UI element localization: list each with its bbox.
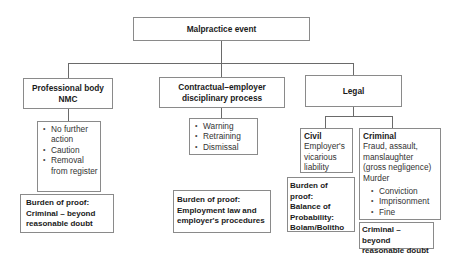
criminal-burden-of-proof: Criminal – beyond reasonable doubt <box>359 222 434 249</box>
civil-heading: Civil <box>304 131 349 141</box>
professional-outcomes-list: No further action Caution Removal from r… <box>41 124 98 176</box>
node-professional-body: Professional body NMC <box>23 78 113 109</box>
civil-description-line: vicarious <box>304 152 349 162</box>
node-legal: Legal <box>305 75 402 107</box>
connector-horizontal-main <box>68 63 354 64</box>
professional-title-line2: NMC <box>59 94 78 105</box>
outcome-item: Retraining <box>193 131 255 141</box>
outcome-item: Dismissal <box>193 142 255 152</box>
burden-line: Probability: <box>290 213 352 224</box>
contractual-title-line2: disciplinary process <box>182 93 262 104</box>
outcome-item: Fine <box>369 207 437 217</box>
burden-line: employer's procedures <box>177 216 267 227</box>
legal-title: Legal <box>343 86 365 97</box>
criminal-description-line: (gross negligence) <box>363 162 437 172</box>
burden-line: Burden of proof: <box>26 198 108 209</box>
connector-professional-outcomes <box>68 108 69 121</box>
civil-burden-of-proof: Burden of proof: Balance of Probability:… <box>287 177 355 232</box>
burden-line: Criminal – beyond <box>362 225 431 246</box>
outcome-item: Caution <box>41 145 98 155</box>
contractual-outcomes-box: Warning Retraining Dismissal <box>189 118 258 155</box>
criminal-description-line: Murder <box>363 173 437 183</box>
connector-legal-down <box>353 106 354 116</box>
criminal-description-line: manslaughter <box>363 152 437 162</box>
civil-description-line: liability <box>304 162 349 172</box>
connector-legal-horizontal <box>325 116 393 117</box>
contractual-title-line1: Contractual–employer <box>178 82 266 93</box>
node-contractual-employer: Contractual–employer disciplinary proces… <box>159 77 285 108</box>
burden-line: Burden of proof: <box>290 181 352 202</box>
root-node-label: Malpractice event <box>187 24 257 35</box>
outcome-item: Removal from register <box>41 155 98 176</box>
connector-to-contractual <box>221 63 222 77</box>
outcome-item: Conviction <box>369 186 437 196</box>
burden-line: Criminal – beyond <box>26 209 108 220</box>
criminal-heading: Criminal <box>363 131 437 141</box>
connector-to-legal <box>353 63 354 75</box>
burden-line: Bolam/Bolitho <box>290 223 352 234</box>
professional-outcomes-box: No further action Caution Removal from r… <box>37 121 101 192</box>
contractual-burden-of-proof: Burden of proof: Employment law and empl… <box>173 190 271 233</box>
burden-line: reasonable doubt <box>362 246 431 257</box>
criminal-description-line: Fraud, assault, <box>363 141 437 151</box>
professional-burden-of-proof: Burden of proof: Criminal – beyond reaso… <box>20 194 114 233</box>
node-criminal: Criminal Fraud, assault, manslaughter (g… <box>359 128 441 220</box>
outcome-item: Imprisonment <box>369 196 437 206</box>
connector-to-criminal <box>392 116 393 128</box>
connector-to-professional <box>68 63 69 78</box>
connector-root-down <box>221 40 222 63</box>
root-node-malpractice-event: Malpractice event <box>133 17 310 41</box>
node-civil: Civil Employer's vicarious liability <box>300 128 353 173</box>
burden-line: reasonable doubt <box>26 219 108 230</box>
outcome-item: No further action <box>41 124 98 145</box>
connector-to-civil <box>325 116 326 128</box>
burden-line: Burden of proof: <box>177 195 267 206</box>
burden-line: Employment law and <box>177 206 267 217</box>
civil-description-line: Employer's <box>304 141 349 151</box>
connector-contractual-outcomes <box>221 107 222 118</box>
criminal-outcomes-list: Conviction Imprisonment Fine <box>363 186 437 217</box>
burden-line: Balance of <box>290 202 352 213</box>
professional-title-line1: Professional body <box>32 83 104 94</box>
contractual-outcomes-list: Warning Retraining Dismissal <box>193 121 255 152</box>
outcome-item: Warning <box>193 121 255 131</box>
